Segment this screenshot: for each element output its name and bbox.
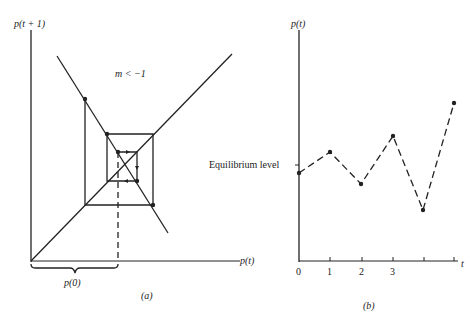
panel-b-points bbox=[297, 101, 456, 212]
panel-a-x-axis-label: p(t) bbox=[240, 256, 254, 266]
price-path bbox=[299, 103, 454, 210]
slope-annotation: m < −1 bbox=[115, 69, 146, 79]
p0-brace bbox=[31, 264, 118, 273]
equilibrium-label: Equilibrium level bbox=[209, 160, 279, 170]
panel-b-caption: (b) bbox=[363, 301, 375, 311]
panel-b-ticks bbox=[295, 165, 454, 261]
tick-label-2: 2 bbox=[359, 267, 364, 277]
panel-a-y-axis-label: p(t + 1) bbox=[14, 19, 45, 29]
panel-b-x-axis-label: t bbox=[461, 259, 464, 269]
panel-b-y-axis-label: p(t) bbox=[291, 19, 305, 29]
panel-a-caption: (a) bbox=[141, 291, 153, 301]
tick-label-3: 3 bbox=[390, 267, 395, 277]
tick-label-0: 0 bbox=[296, 267, 301, 277]
tick-label-1: 1 bbox=[327, 267, 332, 277]
panel-b-graphics bbox=[295, 30, 458, 262]
panel-a-graphics bbox=[31, 30, 240, 273]
p0-label: p(0) bbox=[64, 278, 81, 288]
forty-five-degree-line bbox=[31, 54, 232, 261]
